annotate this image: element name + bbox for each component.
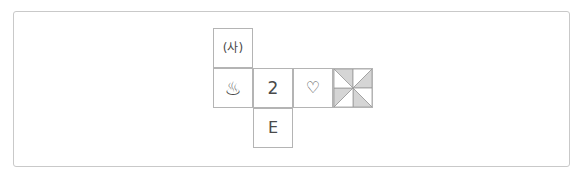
grid-cell-hot-spring[interactable]: ♨ (213, 68, 253, 108)
cell-net-diagram: (사) ♨ 2 ♡ E (213, 28, 373, 148)
pinwheel-eight-triangle-pattern (334, 69, 372, 107)
grid-cell-korean-sa[interactable]: (사) (213, 28, 253, 68)
grid-cell-letter-e[interactable]: E (253, 108, 293, 148)
heart-outline-icon: ♡ (306, 80, 320, 96)
letter-e-glyph: E (268, 120, 278, 136)
hot-spring-onsen-icon: ♨ (224, 79, 241, 98)
screenshot-canvas: (사) ♨ 2 ♡ E (0, 0, 584, 181)
grid-cell-pinwheel[interactable] (333, 68, 373, 108)
grid-cell-digit-two[interactable]: 2 (253, 68, 293, 108)
digit-two-glyph: 2 (268, 80, 279, 97)
grid-cell-heart[interactable]: ♡ (293, 68, 333, 108)
korean-sa-parenthesis-glyph: (사) (223, 42, 243, 54)
